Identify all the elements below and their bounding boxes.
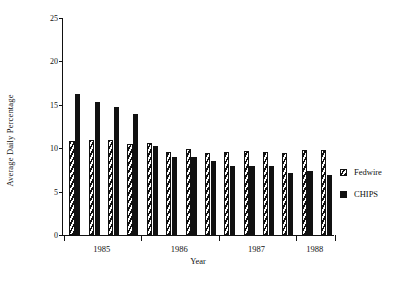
legend-item-fedwire: Fedwire bbox=[340, 168, 395, 177]
bar-fedwire-5 bbox=[166, 152, 171, 235]
x-axis-group-label-1986: 1986 bbox=[140, 243, 217, 255]
x-axis-group-separator bbox=[296, 235, 297, 241]
bar-fedwire-8 bbox=[224, 152, 229, 235]
x-axis-label-text: Year bbox=[190, 256, 206, 266]
x-axis-group-label-1988: 1988 bbox=[295, 243, 334, 255]
legend-item-chips: CHIPS bbox=[340, 190, 395, 199]
bar-chips-0 bbox=[75, 94, 80, 235]
bar-chips-10 bbox=[269, 166, 274, 235]
bar-fedwire-7 bbox=[205, 153, 210, 235]
legend-label-fedwire: Fedwire bbox=[354, 168, 382, 177]
x-axis-group-label-1987: 1987 bbox=[218, 243, 295, 255]
bar-chips-6 bbox=[191, 157, 196, 235]
bar-chips-8 bbox=[230, 166, 235, 235]
y-tick-mark bbox=[59, 235, 63, 236]
bar-fedwire-4 bbox=[147, 143, 152, 235]
bar-chips-3 bbox=[133, 114, 138, 235]
bar-fedwire-13 bbox=[321, 150, 326, 235]
x-axis-group-separator bbox=[64, 235, 65, 241]
bar-fedwire-9 bbox=[244, 151, 249, 235]
bar-chips-1 bbox=[95, 102, 100, 235]
bar-chips-13 bbox=[327, 175, 332, 235]
bar-chips-9 bbox=[249, 166, 254, 235]
bar-fedwire-10 bbox=[263, 152, 268, 235]
bar-fedwire-1 bbox=[89, 140, 94, 235]
bar-fedwire-3 bbox=[127, 144, 132, 235]
y-axis-label: Average Daily Percentage bbox=[0, 0, 20, 281]
bar-fedwire-6 bbox=[186, 149, 191, 235]
x-axis-group-label-1985: 1985 bbox=[63, 243, 140, 255]
bar-chips-12 bbox=[307, 171, 312, 235]
plot-area: 0510152025 1985198619871988 bbox=[62, 18, 334, 236]
y-axis-label-text: Average Daily Percentage bbox=[5, 94, 15, 186]
bar-chips-4 bbox=[153, 146, 158, 235]
bar-fedwire-12 bbox=[302, 150, 307, 235]
bar-fedwire-0 bbox=[69, 141, 74, 235]
filled-square-icon bbox=[340, 191, 347, 198]
x-axis-group-separator bbox=[219, 235, 220, 241]
x-axis-label: Year bbox=[62, 256, 334, 266]
bar-chips-2 bbox=[114, 107, 119, 235]
x-axis-group-separator bbox=[141, 235, 142, 241]
bar-chips-5 bbox=[172, 157, 177, 235]
bar-series-container bbox=[63, 18, 334, 235]
bar-fedwire-2 bbox=[108, 140, 113, 235]
bar-chips-11 bbox=[288, 173, 293, 235]
x-axis-group-separator bbox=[335, 235, 336, 241]
bar-chart-figure: Average Daily Percentage 0510152025 1985… bbox=[0, 0, 395, 281]
chart-legend: Fedwire CHIPS bbox=[340, 168, 395, 212]
legend-label-chips: CHIPS bbox=[354, 190, 378, 199]
hatched-square-icon bbox=[340, 169, 347, 176]
bar-fedwire-11 bbox=[282, 153, 287, 235]
bar-chips-7 bbox=[211, 161, 216, 235]
